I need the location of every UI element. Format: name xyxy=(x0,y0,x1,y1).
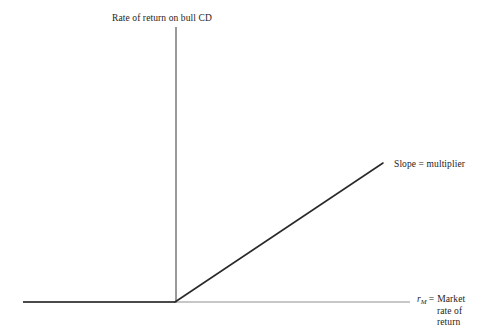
payoff-slope-line xyxy=(175,163,383,302)
x-axis-title: rM=Market rate of return xyxy=(417,294,465,328)
x-axis-title-line-2: rate of xyxy=(437,306,465,317)
x-axis-title-first-line: rM=Market xyxy=(417,294,465,306)
y-axis-title: Rate of return on bull CD xyxy=(112,13,212,24)
market-return-subscript: M xyxy=(421,297,427,308)
x-axis-title-line-1: Market xyxy=(437,294,465,305)
payoff-diagram: Rate of return on bull CD Slope = multip… xyxy=(0,0,491,334)
equals-sign: = xyxy=(429,294,434,305)
x-axis-title-line-3: return xyxy=(437,317,465,328)
slope-annotation-label: Slope = multiplier xyxy=(394,159,465,170)
